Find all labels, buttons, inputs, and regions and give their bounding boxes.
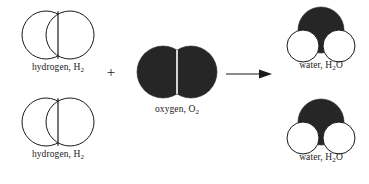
oxygen-molecule-label: oxygen, O2 bbox=[134, 104, 220, 115]
hydrogen-label-sub-1: 2 bbox=[80, 66, 84, 74]
reaction-arrow bbox=[226, 66, 274, 82]
water-label-sub-1: 2 bbox=[332, 64, 336, 72]
hydrogen-atom-right bbox=[323, 122, 355, 154]
oxygen-label-sub: 2 bbox=[195, 108, 199, 116]
hydrogen-atom-right bbox=[46, 11, 94, 59]
hydrogen-label-sub-2: 2 bbox=[80, 153, 84, 161]
oxygen-atom-right bbox=[165, 46, 217, 98]
water-label-sub-2: 2 bbox=[332, 156, 336, 164]
water-molecule-1-label: water, H2O bbox=[282, 60, 360, 71]
water-molecule-shape bbox=[282, 96, 360, 152]
arrow-head-icon bbox=[259, 70, 272, 79]
hydrogen-molecule-shape bbox=[18, 97, 98, 147]
reaction-diagram: hydrogen, H2 hydrogen, H2 + oxygen, O2 bbox=[0, 0, 369, 184]
water-label-suffix-2: O bbox=[336, 152, 343, 162]
hydrogen-label-text-2: hydrogen, H bbox=[32, 149, 81, 159]
hydrogen-molecule-shape bbox=[18, 10, 98, 60]
hydrogen-molecule-1: hydrogen, H2 bbox=[18, 10, 98, 60]
hydrogen-atom-right bbox=[323, 30, 355, 62]
hydrogen-atom-left bbox=[287, 30, 319, 62]
hydrogen-molecule-2-label: hydrogen, H2 bbox=[18, 149, 98, 160]
oxygen-molecule: oxygen, O2 bbox=[134, 44, 220, 100]
water-label-prefix-2: water, H bbox=[299, 152, 332, 162]
oxygen-label-text: oxygen, O bbox=[155, 104, 195, 114]
water-label-prefix-1: water, H bbox=[299, 60, 332, 70]
hydrogen-atom-left bbox=[287, 122, 319, 154]
hydrogen-atom-right bbox=[46, 98, 94, 146]
plus-operator: + bbox=[100, 64, 122, 81]
water-molecule-shape bbox=[282, 4, 360, 60]
water-molecule-2: water, H2O bbox=[282, 96, 360, 152]
hydrogen-label-text-1: hydrogen, H bbox=[32, 62, 81, 72]
water-molecule-1: water, H2O bbox=[282, 4, 360, 60]
oxygen-molecule-shape bbox=[134, 44, 220, 100]
hydrogen-molecule-1-label: hydrogen, H2 bbox=[18, 62, 98, 73]
water-molecule-2-label: water, H2O bbox=[282, 152, 360, 163]
hydrogen-molecule-2: hydrogen, H2 bbox=[18, 97, 98, 147]
water-label-suffix-1: O bbox=[336, 60, 343, 70]
